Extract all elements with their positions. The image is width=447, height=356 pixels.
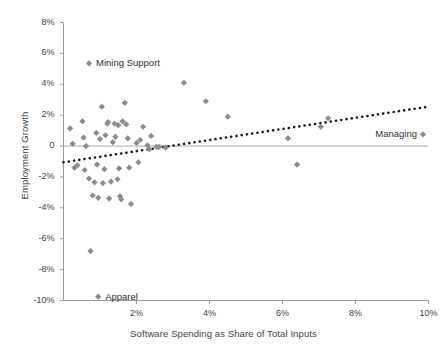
data-point	[203, 98, 209, 104]
data-point	[110, 139, 116, 145]
data-point	[101, 166, 107, 172]
data-point	[86, 175, 92, 181]
data-point	[125, 135, 131, 141]
data-point	[90, 192, 96, 198]
data-point	[95, 195, 101, 201]
plot-area	[0, 0, 447, 356]
data-point	[114, 176, 120, 182]
data-point	[225, 114, 231, 120]
data-point	[79, 118, 85, 124]
data-point	[80, 134, 86, 140]
annotation-managing: Managing	[367, 128, 417, 139]
data-point	[106, 195, 112, 201]
data-point	[108, 178, 114, 184]
data-point	[122, 100, 128, 106]
data-point	[95, 294, 101, 300]
data-point	[140, 124, 146, 130]
data-point	[285, 135, 291, 141]
data-point	[91, 179, 97, 185]
data-point	[148, 133, 154, 139]
data-point	[116, 165, 122, 171]
annotation-apparel: Apparel	[105, 291, 138, 302]
data-point	[86, 60, 92, 66]
data-point	[83, 143, 89, 149]
annotation-mining-support: Mining Support	[96, 57, 160, 68]
data-point	[94, 161, 100, 167]
scatter-chart: Employment Growth Software Spending as S…	[0, 0, 447, 356]
data-point	[181, 80, 187, 86]
data-point	[97, 136, 103, 142]
data-point	[420, 131, 426, 137]
data-point	[67, 125, 73, 131]
data-point	[126, 165, 132, 171]
data-point	[99, 104, 105, 110]
data-point	[93, 130, 99, 136]
data-point	[87, 248, 93, 254]
data-point	[318, 124, 324, 130]
data-point	[100, 180, 106, 186]
data-point	[128, 201, 134, 207]
data-point	[82, 167, 88, 173]
data-point	[294, 161, 300, 167]
data-point	[102, 132, 108, 138]
data-point	[112, 134, 118, 140]
data-point	[135, 159, 141, 165]
